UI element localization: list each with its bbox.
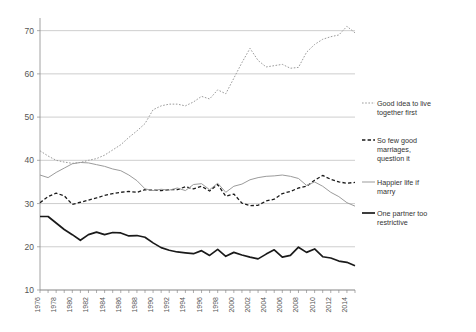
x-tick-label: 1984 [99, 297, 106, 313]
y-tick-label: 70 [25, 26, 35, 36]
x-tick-label: 2004 [260, 297, 267, 313]
legend-label-3: Happier life if [377, 178, 419, 187]
legend-label-4: restrictive [377, 218, 408, 227]
x-tick-label: 1982 [82, 297, 89, 313]
y-tick-label: 40 [25, 155, 35, 165]
x-tick-label: 1998 [212, 297, 219, 313]
y-tick-label: 50 [25, 112, 35, 122]
x-tick-label: 1986 [115, 297, 122, 313]
x-tick-label: 1992 [163, 297, 170, 313]
y-tick-label: 10 [25, 285, 35, 295]
x-tick-label: 2002 [244, 297, 251, 313]
x-tick-label: 1980 [66, 297, 73, 313]
x-tick-label: 1988 [131, 297, 138, 313]
series-line-2 [40, 175, 355, 205]
x-tick-label: 2010 [309, 297, 316, 313]
legend-label-1: Good idea to live [377, 99, 431, 108]
x-tick-label: 2008 [292, 297, 299, 313]
legend-label-1: together first [377, 108, 417, 117]
legend-label-4: One partner too [377, 209, 427, 218]
x-tick-label: 2014 [341, 297, 348, 313]
x-tick-label: 1990 [147, 297, 154, 313]
x-tick-label: 2012 [325, 297, 332, 313]
x-tick-label: 1994 [179, 297, 186, 313]
y-tick-label: 60 [25, 69, 35, 79]
chart-canvas: 1020304050607019761978198019821984198619… [0, 0, 476, 332]
legend-label-2: question it [377, 154, 410, 163]
legend-label-2: marriages, [377, 145, 411, 154]
x-tick-label: 1976 [34, 297, 41, 313]
x-tick-label: 2006 [276, 297, 283, 313]
series-line-4 [40, 217, 355, 266]
x-tick-label: 2000 [228, 297, 235, 313]
x-tick-label: 1978 [50, 297, 57, 313]
series-line-1 [40, 26, 355, 163]
x-tick-label: 1996 [196, 297, 203, 313]
legend-label-3: marry [377, 187, 396, 196]
legend-label-2: So few good [377, 136, 417, 145]
line-chart: 1020304050607019761978198019821984198619… [0, 0, 476, 332]
series-line-3 [40, 162, 355, 206]
y-tick-label: 30 [25, 199, 35, 209]
y-tick-label: 20 [25, 242, 35, 252]
